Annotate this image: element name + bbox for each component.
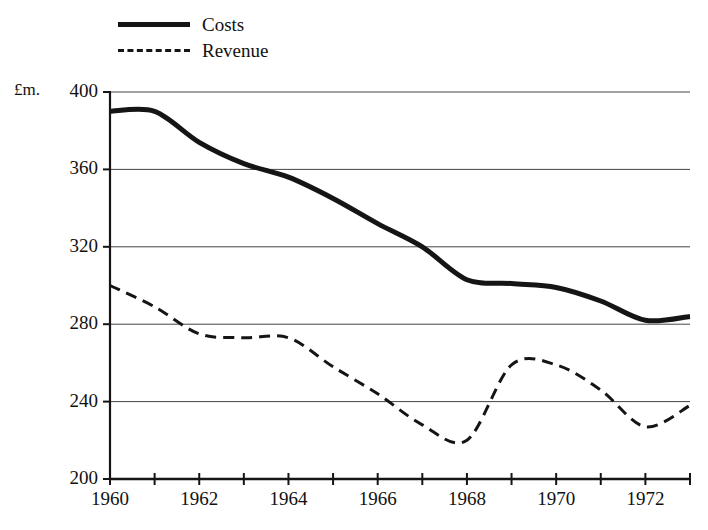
x-axis-tick-label: 1966: [348, 489, 408, 509]
x-axis-tick-label: 1972: [615, 489, 675, 509]
x-axis-tick-label: 1968: [437, 489, 497, 509]
legend-swatch-dashed-line-icon: [118, 44, 190, 58]
y-axis-tick-label: 200: [52, 469, 98, 487]
legend-label-costs: Costs: [202, 15, 244, 35]
legend-swatch-solid-line-icon: [118, 18, 190, 32]
chart-plot-area: [0, 0, 708, 530]
chart-figure: Costs Revenue £m. 400360320280240200 196…: [0, 0, 708, 530]
y-axis-tick-label: 320: [52, 237, 98, 255]
chart-legend: Costs Revenue: [118, 8, 378, 70]
x-axis-tick-label: 1964: [258, 489, 318, 509]
y-axis-tick-label: 240: [52, 392, 98, 410]
y-axis-tick-label: 360: [52, 159, 98, 177]
series-line-revenue: [110, 286, 690, 444]
x-axis-tick-label: 1960: [80, 489, 140, 509]
axis-lines: [110, 92, 690, 479]
gridlines: [110, 92, 690, 479]
x-axis-tick-label: 1962: [169, 489, 229, 509]
legend-item-costs: Costs: [118, 12, 244, 38]
x-axis-tick-label: 1970: [526, 489, 586, 509]
series-line-costs: [110, 109, 690, 321]
legend-item-revenue: Revenue: [118, 38, 268, 64]
data-series-layer: [110, 109, 690, 443]
y-axis-unit-label: £m.: [14, 80, 40, 100]
y-axis-tick-label: 280: [52, 314, 98, 332]
y-axis-tick-label: 400: [52, 82, 98, 100]
legend-label-revenue: Revenue: [202, 41, 268, 61]
